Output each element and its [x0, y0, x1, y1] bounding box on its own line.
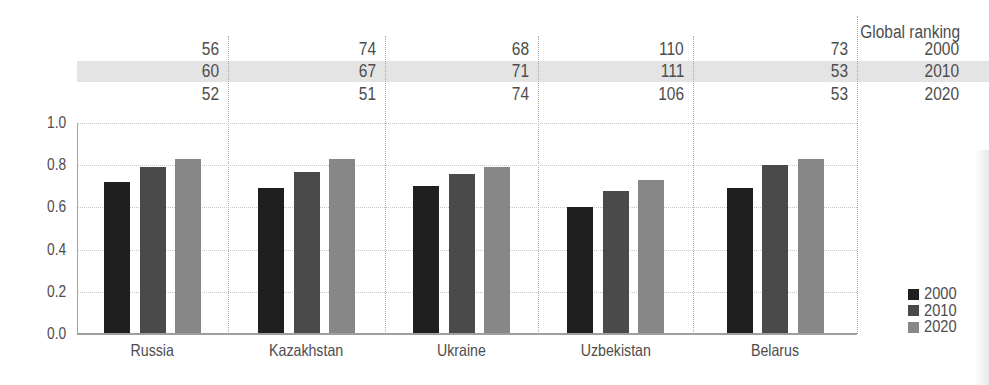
y-tick-0.2: 0.2 [44, 282, 66, 302]
bar-belarus-2020 [798, 159, 824, 333]
text: 2020 [924, 319, 957, 335]
separator-line [385, 36, 386, 334]
ranking-value-uzbekistan-2000: 110 [655, 39, 684, 59]
text: 53 [831, 84, 848, 104]
country-label-kazakhstan: Kazakhstan [228, 340, 385, 360]
text: 0.4 [47, 240, 66, 260]
text: 0.8 [47, 155, 66, 175]
y-tick-1.0: 1.0 [44, 113, 66, 133]
bar-russia-2020 [175, 159, 201, 333]
text: Russia [131, 340, 174, 360]
text: 56 [202, 39, 219, 59]
country-label-belarus: Belarus [693, 340, 857, 360]
text: 68 [512, 39, 529, 59]
separator-line [693, 36, 694, 334]
bar-kazakhstan-2020 [329, 159, 355, 333]
text: 67 [359, 61, 376, 81]
y-tick-0.6: 0.6 [44, 197, 66, 217]
text: 0.6 [47, 197, 66, 217]
text: 52 [202, 84, 219, 104]
separator-line [857, 16, 858, 334]
separator-line [228, 36, 229, 334]
y-tick-0.0: 0.0 [44, 324, 66, 344]
legend-label-2020: 2020 [924, 319, 962, 335]
text: 1.0 [47, 113, 66, 133]
ranking-year-label-2020: 2020 [919, 84, 959, 104]
legend-swatch-2000 [908, 289, 919, 300]
y-tick-0.4: 0.4 [44, 240, 66, 260]
text: 0.0 [47, 324, 66, 344]
bar-ukraine-2020 [484, 167, 510, 333]
text: Uzbekistan [580, 340, 650, 360]
ranking-value-belarus-2010: 53 [828, 61, 848, 81]
y-tick-0.8: 0.8 [44, 155, 66, 175]
x-axis-line [77, 333, 857, 335]
text: 111 [660, 61, 684, 81]
ranking-value-uzbekistan-2010: 111 [657, 61, 684, 81]
text: 0.2 [47, 282, 66, 302]
text: 73 [831, 39, 848, 59]
text: 74 [359, 39, 376, 59]
bar-uzbekistan-2000 [567, 207, 593, 333]
bar-uzbekistan-2020 [638, 180, 664, 333]
text: 60 [202, 61, 219, 81]
bar-russia-2000 [104, 182, 130, 333]
ranking-value-uzbekistan-2020: 106 [654, 84, 684, 104]
text: 110 [659, 39, 684, 59]
ranking-value-kazakhstan-2020: 51 [356, 84, 376, 104]
bar-belarus-2010 [762, 165, 788, 333]
text: 71 [512, 61, 529, 81]
scan-edge-artifact [975, 150, 989, 385]
bar-ukraine-2010 [449, 174, 475, 333]
ranking-value-belarus-2000: 73 [828, 39, 848, 59]
country-label-uzbekistan: Uzbekistan [538, 340, 693, 360]
bar-belarus-2000 [727, 188, 753, 333]
bar-kazakhstan-2000 [258, 188, 284, 333]
ranking-value-belarus-2020: 53 [828, 84, 848, 104]
text: 106 [658, 84, 684, 104]
ranking-value-ukraine-2000: 68 [509, 39, 529, 59]
legend-swatch-2020 [908, 322, 919, 333]
separator-line [538, 36, 539, 334]
ranking-value-kazakhstan-2010: 67 [356, 61, 376, 81]
ranking-value-russia-2020: 52 [199, 84, 219, 104]
text: 2020 [925, 84, 959, 104]
text: 74 [512, 84, 529, 104]
text: 51 [359, 84, 376, 104]
gridline-1.0 [78, 123, 857, 124]
bar-russia-2010 [140, 167, 166, 333]
text: 53 [831, 61, 848, 81]
ranking-value-russia-2010: 60 [199, 61, 219, 81]
ranking-value-ukraine-2010: 71 [509, 61, 529, 81]
bar-ukraine-2000 [413, 186, 439, 333]
legend-swatch-2010 [908, 305, 919, 316]
bar-kazakhstan-2010 [294, 172, 320, 333]
text: Belarus [751, 340, 799, 360]
index-bar-chart-figure: Global ranking 5660527467516871741101111… [0, 0, 989, 385]
chart-legend: 200020102020 [908, 286, 962, 336]
bar-uzbekistan-2010 [603, 191, 629, 333]
y-axis-line [77, 123, 78, 334]
text: Kazakhstan [269, 340, 343, 360]
country-label-russia: Russia [77, 340, 228, 360]
ranking-value-kazakhstan-2000: 74 [356, 39, 376, 59]
text: Ukraine [437, 340, 486, 360]
country-label-ukraine: Ukraine [385, 340, 538, 360]
text: 2010 [925, 61, 959, 81]
ranking-year-label-2010: 2010 [919, 61, 959, 81]
ranking-value-russia-2000: 56 [199, 39, 219, 59]
ranking-year-label-2000: 2000 [919, 39, 959, 59]
text: 2000 [925, 39, 959, 59]
legend-item-2020: 2020 [908, 319, 962, 336]
ranking-value-ukraine-2020: 74 [509, 84, 529, 104]
